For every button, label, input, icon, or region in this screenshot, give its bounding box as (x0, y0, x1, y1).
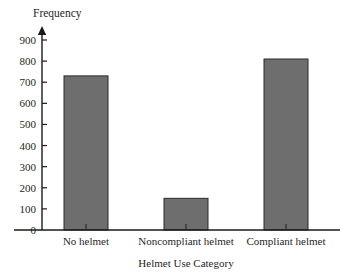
bar (264, 59, 308, 230)
y-axis-tick-label: 300 (8, 161, 36, 172)
x-axis-category-label: No helmet (63, 236, 109, 247)
y-axis-tick-label: 900 (8, 35, 36, 46)
y-axis-tick-label: 400 (8, 140, 36, 151)
y-axis-tick-label: 500 (8, 119, 36, 130)
bars-group (64, 59, 308, 230)
y-axis-tick-label: 100 (8, 203, 36, 214)
y-axis-tick-label: 700 (8, 77, 36, 88)
y-axis-tick-label: 200 (8, 182, 36, 193)
y-axis-tick-label: 0 (8, 225, 36, 236)
x-axis-category-label: Compliant helmet (246, 236, 325, 247)
y-axis-title: Frequency (33, 8, 82, 20)
y-axis-tick-label: 600 (8, 98, 36, 109)
bar-chart: Frequency 0100200300400500600700800900 N… (0, 0, 351, 277)
y-axis-tick-label: 800 (8, 56, 36, 67)
y-axis-arrow-icon (38, 26, 46, 35)
x-axis-title: Helmet Use Category (138, 258, 233, 269)
bar (64, 76, 108, 230)
x-axis-category-label: Noncompliant helmet (138, 236, 234, 247)
